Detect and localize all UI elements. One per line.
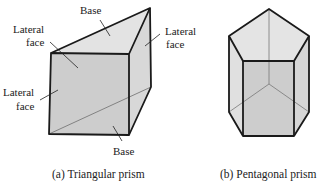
label-lateral-left-bottom-2: face (16, 100, 34, 112)
caption-triangular: (a) Triangular prism (52, 168, 145, 181)
label-lateral-left-top-2: face (26, 36, 44, 48)
front-lateral-face (49, 53, 129, 135)
front-lateral-face (243, 61, 294, 136)
label-lateral-left-top-1: Lateral (13, 23, 44, 35)
label-lateral-right-2: face (166, 38, 184, 50)
pentagonal-prism: (b) Pentagonal prism (220, 9, 317, 181)
triangular-prism: Base Lateral face Lateral face Lateral f… (3, 4, 196, 181)
prism-figure: Base Lateral face Lateral face Lateral f… (0, 0, 318, 190)
label-lateral-right-1: Lateral (165, 25, 196, 37)
label-lateral-left-bottom-1: Lateral (3, 86, 34, 98)
figure-canvas: Base Lateral face Lateral face Lateral f… (0, 0, 318, 190)
label-base-top: Base (80, 4, 102, 16)
label-base-bottom: Base (113, 145, 135, 157)
caption-pentagonal: (b) Pentagonal prism (220, 168, 317, 181)
